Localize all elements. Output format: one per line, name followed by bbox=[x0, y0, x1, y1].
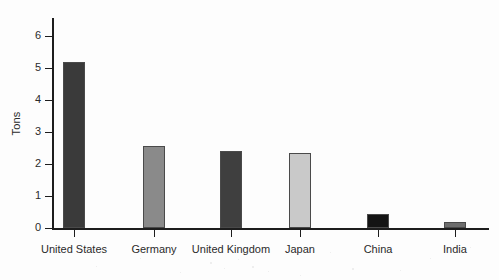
speckle-6 bbox=[352, 268, 354, 270]
x-tick-5 bbox=[455, 230, 456, 237]
y-axis-line bbox=[52, 18, 54, 230]
y-tick-6 bbox=[45, 36, 54, 37]
y-tick-label-4: 4 bbox=[26, 94, 41, 105]
speckle-10 bbox=[96, 266, 97, 267]
y-tick-5 bbox=[45, 68, 54, 69]
bar-india bbox=[444, 222, 466, 228]
speckle-12 bbox=[470, 247, 471, 248]
bar-china bbox=[367, 214, 389, 228]
bar-japan bbox=[289, 153, 311, 228]
bar-united-states bbox=[63, 62, 85, 228]
x-label-united-kingdom: United Kingdom bbox=[191, 243, 271, 256]
y-tick-2 bbox=[45, 164, 54, 165]
speckle-11 bbox=[400, 270, 401, 271]
speckle-8 bbox=[430, 258, 431, 259]
bar-united-kingdom bbox=[220, 151, 242, 228]
x-tick-4 bbox=[378, 230, 379, 237]
speckle-2 bbox=[238, 259, 239, 260]
x-label-japan: Japan bbox=[260, 243, 340, 256]
x-label-china: China bbox=[338, 243, 418, 256]
y-tick-label-6: 6 bbox=[26, 30, 41, 41]
y-tick-label-2: 2 bbox=[26, 158, 41, 169]
bar-chart: Tons 0123456 United StatesGermanyUnited … bbox=[0, 0, 499, 280]
speckle-5 bbox=[330, 252, 331, 253]
speckle-1 bbox=[224, 268, 225, 269]
y-tick-label-1: 1 bbox=[26, 190, 41, 201]
y-tick-1 bbox=[45, 196, 54, 197]
y-tick-0 bbox=[45, 228, 54, 229]
x-tick-3 bbox=[300, 230, 301, 237]
speckle-9 bbox=[180, 272, 181, 273]
x-axis-line bbox=[52, 228, 489, 230]
speckle-4 bbox=[268, 271, 269, 272]
y-tick-label-5: 5 bbox=[26, 62, 41, 73]
speckle-7 bbox=[300, 275, 301, 276]
x-label-united-states: United States bbox=[34, 243, 114, 256]
bar-germany bbox=[143, 146, 165, 228]
y-tick-4 bbox=[45, 100, 54, 101]
y-axis-title: Tons bbox=[11, 100, 22, 148]
x-label-germany: Germany bbox=[114, 243, 194, 256]
x-tick-2 bbox=[231, 230, 232, 237]
x-tick-0 bbox=[74, 230, 75, 237]
y-tick-label-3: 3 bbox=[26, 126, 41, 137]
speckle-13 bbox=[140, 258, 141, 259]
speckle-3 bbox=[252, 266, 254, 268]
x-tick-1 bbox=[154, 230, 155, 237]
x-label-india: India bbox=[415, 243, 495, 256]
y-tick-label-0: 0 bbox=[26, 222, 41, 233]
speckle-0 bbox=[210, 262, 212, 264]
y-tick-3 bbox=[45, 132, 54, 133]
